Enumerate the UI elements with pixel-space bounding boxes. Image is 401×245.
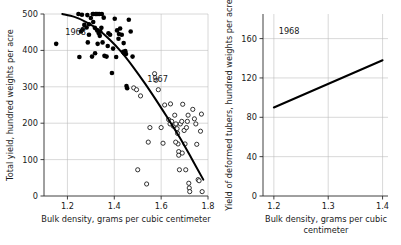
data-point-filled	[105, 44, 110, 49]
data-point-open	[200, 190, 204, 194]
y-tick-label: 160	[241, 34, 257, 44]
data-point-open	[168, 102, 172, 106]
data-point-open	[138, 94, 142, 98]
data-point-filled	[121, 41, 126, 46]
y-tick-label: 500	[22, 9, 38, 19]
data-point-filled	[112, 16, 117, 21]
y-tick-label: 300	[22, 82, 38, 92]
data-point-filled	[118, 26, 123, 31]
data-point-open	[174, 122, 178, 126]
right-panel-x-axis-title-line1: Bulk density, grams per cubic	[265, 214, 387, 224]
data-point-open	[161, 141, 165, 145]
data-point-filled	[80, 12, 85, 17]
data-point-filled	[87, 32, 92, 37]
right-panel-xticks: 1.21.31.4	[267, 196, 389, 211]
x-tick-label: 1.2	[267, 201, 280, 211]
data-point-open	[163, 103, 167, 107]
data-point-open	[186, 113, 190, 117]
y-tick-label: 40	[247, 152, 257, 162]
left-panel-annotation-1968: 1968	[65, 27, 86, 37]
data-point-open	[185, 119, 189, 123]
data-point-open	[146, 140, 150, 144]
data-point-filled	[111, 46, 116, 51]
left-panel: 1.21.41.61.8 0100200300400500 1968 1967 …	[5, 9, 215, 224]
data-point-filled	[110, 71, 115, 76]
x-tick-label: 1.4	[376, 201, 389, 211]
y-tick-label: 80	[247, 112, 257, 122]
two-panel-scatter-figure: 1.21.41.61.8 0100200300400500 1968 1967 …	[0, 0, 401, 245]
data-point-filled	[125, 86, 130, 91]
data-point-open	[192, 117, 196, 121]
data-point-filled	[85, 13, 90, 18]
data-point-filled	[90, 54, 95, 59]
right-panel-y-axis-title: Yield of deformed tubers, hundred weight…	[224, 0, 234, 212]
y-tick-label: 0	[33, 191, 38, 201]
y-tick-label: 0	[252, 191, 257, 201]
data-point-open	[188, 190, 192, 194]
x-tick-label: 1.2	[61, 201, 74, 211]
data-point-open	[174, 140, 178, 144]
data-point-open	[191, 107, 195, 111]
data-point-filled	[91, 20, 96, 25]
data-point-filled	[89, 16, 94, 21]
data-point-open	[159, 125, 163, 129]
data-point-open	[156, 88, 160, 92]
left-panel-y-axis-title: Total yield, hundred weights per acre	[5, 29, 15, 182]
right-panel-yticks: 04080120160	[241, 34, 263, 201]
x-tick-label: 1.6	[155, 201, 168, 211]
data-point-filled	[119, 32, 124, 37]
data-point-open	[145, 182, 149, 186]
data-point-open	[180, 119, 184, 123]
x-tick-label: 1.8	[201, 201, 214, 211]
y-tick-label: 100	[22, 155, 38, 165]
data-point-filled	[114, 55, 119, 60]
left-panel-x-axis-title: Bulk density, grams per cubic centimeter	[41, 214, 211, 224]
left-panel-annotation-1967: 1967	[147, 74, 168, 84]
right-panel: 1.21.31.4 04080120160 1968 Bulk density,…	[224, 0, 389, 235]
data-point-open	[181, 102, 185, 106]
x-tick-label: 1.3	[322, 201, 335, 211]
y-tick-label: 200	[22, 118, 38, 128]
left-panel-series-1968-points	[54, 12, 135, 91]
right-panel-annotation-1968: 1968	[279, 26, 300, 36]
data-point-filled	[54, 42, 59, 47]
x-tick-label: 1.4	[108, 201, 121, 211]
data-point-filled	[104, 54, 109, 59]
data-point-filled	[86, 40, 91, 45]
data-point-open	[199, 112, 203, 116]
data-point-open	[134, 88, 138, 92]
figure-canvas: 1.21.41.61.8 0100200300400500 1968 1967 …	[0, 0, 401, 245]
data-point-filled	[97, 34, 102, 39]
y-tick-label: 400	[22, 45, 38, 55]
left-panel-xticks: 1.21.41.61.8	[61, 196, 215, 211]
data-point-filled	[99, 26, 104, 31]
data-point-open	[194, 122, 198, 126]
data-point-open	[184, 125, 188, 129]
data-point-open	[177, 168, 181, 172]
data-point-filled	[127, 18, 132, 23]
data-point-filled	[128, 29, 133, 34]
data-point-filled	[77, 55, 82, 60]
y-tick-label: 120	[241, 73, 257, 83]
data-point-open	[195, 142, 199, 146]
data-point-filled	[108, 32, 113, 37]
left-panel-yticks: 0100200300400500	[22, 9, 44, 201]
data-point-open	[197, 179, 201, 183]
data-point-open	[198, 129, 202, 133]
data-point-open	[148, 125, 152, 129]
data-point-filled	[130, 54, 135, 59]
data-point-filled	[95, 42, 100, 47]
left-panel-series-1967-points	[132, 72, 205, 194]
data-point-filled	[116, 36, 121, 41]
data-point-open	[180, 151, 184, 155]
data-point-filled	[101, 15, 106, 20]
data-point-open	[173, 113, 177, 117]
data-point-filled	[100, 40, 105, 45]
right-panel-x-axis-title-line2: centimeter	[304, 225, 349, 235]
data-point-open	[187, 181, 191, 185]
data-point-open	[184, 168, 188, 172]
data-point-open	[136, 168, 140, 172]
